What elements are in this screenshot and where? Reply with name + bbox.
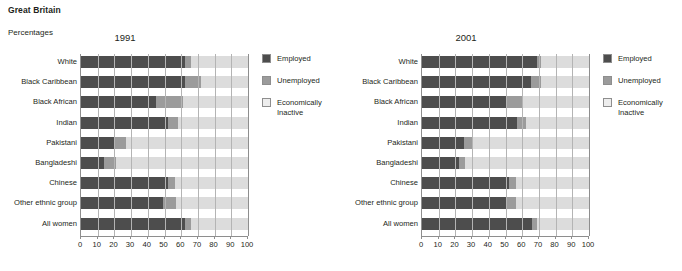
gridline <box>198 54 199 236</box>
legend-label: Unemployed <box>618 76 661 86</box>
bar-segment-employed <box>81 96 156 108</box>
axis-tick <box>247 236 248 239</box>
legend-swatch-unemployed-icon <box>603 76 612 85</box>
bar-segment-inactive <box>178 117 248 129</box>
legend-2001: EmployedUnemployedEconomically Inactive <box>603 54 681 129</box>
axis-tick <box>113 236 114 239</box>
axis-tick <box>555 236 556 239</box>
category-label: Black African <box>0 96 77 108</box>
axis-tick <box>214 236 215 239</box>
bar-segment-employed <box>422 137 464 149</box>
gridline <box>472 54 473 236</box>
legend-label: Unemployed <box>277 76 320 86</box>
bar-segment-unemployed <box>114 137 126 149</box>
bar-segment-inactive <box>175 177 248 189</box>
bar-segment-employed <box>422 197 507 209</box>
bar-segment-inactive <box>537 218 589 230</box>
category-label: Black Caribbean <box>0 76 77 88</box>
legend-label: Employed <box>618 54 652 64</box>
category-label: White <box>0 56 77 68</box>
bar-segment-inactive <box>541 56 589 68</box>
bar-segment-unemployed <box>459 157 466 169</box>
category-label: Other ethnic group <box>0 197 77 209</box>
gridline <box>248 54 249 236</box>
axis-tick <box>421 236 422 239</box>
bar-segment-employed <box>422 117 517 129</box>
bar-segment-unemployed <box>156 96 183 108</box>
bar-segment-employed <box>422 96 506 108</box>
gridline <box>539 54 540 236</box>
plot-area-2001: WhiteBlack CaribbeanBlack AfricanIndianP… <box>421 54 589 236</box>
axis-tick <box>147 236 148 239</box>
bar-segment-inactive <box>526 117 589 129</box>
category-label: White <box>323 56 418 68</box>
bar-segment-inactive <box>201 76 248 88</box>
category-label: Bangladeshi <box>323 157 418 169</box>
plot-area-1991: WhiteBlack CaribbeanBlack AfricanIndianP… <box>80 54 248 236</box>
legend-item-unemployed[interactable]: Unemployed <box>603 76 681 86</box>
axis-tick <box>130 236 131 239</box>
axis-tick <box>230 236 231 239</box>
axis-tick <box>97 236 98 239</box>
axis-tick <box>505 236 506 239</box>
bar-segment-employed <box>81 177 168 189</box>
gridline <box>231 54 232 236</box>
bar-segment-employed <box>422 157 459 169</box>
bar-segment-inactive <box>516 197 589 209</box>
axis-tick <box>538 236 539 239</box>
bar-segment-unemployed <box>506 96 523 108</box>
axis-tick <box>164 236 165 239</box>
axis-tick-label: 100 <box>576 240 600 249</box>
bar-segment-inactive <box>541 76 589 88</box>
bar-segment-inactive <box>191 218 248 230</box>
category-label: Indian <box>323 117 418 129</box>
axis-tick <box>438 236 439 239</box>
bar-segment-inactive <box>126 137 248 149</box>
axis-tick <box>180 236 181 239</box>
legend-item-employed[interactable]: Employed <box>603 54 681 64</box>
gridline <box>589 54 590 236</box>
bar-segment-employed <box>81 197 163 209</box>
legend-label: Employed <box>277 54 311 64</box>
bar-segment-unemployed <box>507 197 515 209</box>
chart-title-1991: 1991 <box>0 32 250 43</box>
gridline <box>148 54 149 236</box>
gridline <box>556 54 557 236</box>
legend-item-inactive[interactable]: Economically Inactive <box>603 98 681 117</box>
bar-segment-inactive <box>516 177 589 189</box>
bar-segment-inactive <box>191 56 248 68</box>
axis-tick <box>521 236 522 239</box>
gridline <box>215 54 216 236</box>
axis-tick <box>471 236 472 239</box>
bar-segment-unemployed <box>168 117 178 129</box>
bar-segment-inactive <box>176 197 248 209</box>
bar-segment-unemployed <box>464 137 472 149</box>
category-label: Indian <box>0 117 77 129</box>
bar-segment-unemployed <box>185 56 192 68</box>
gridline <box>181 54 182 236</box>
bar-segment-unemployed <box>185 218 192 230</box>
bar-segment-employed <box>81 117 168 129</box>
gridline <box>489 54 490 236</box>
category-label: Chinese <box>323 177 418 189</box>
axis-tick <box>571 236 572 239</box>
bar-segment-employed <box>81 56 185 68</box>
category-label: Black African <box>323 96 418 108</box>
legend-swatch-employed-icon <box>262 54 271 63</box>
bar-segment-employed <box>422 177 509 189</box>
gridline <box>506 54 507 236</box>
gridline <box>522 54 523 236</box>
axis-tick <box>588 236 589 239</box>
category-label: Pakistani <box>0 137 77 149</box>
bar-segment-unemployed <box>168 177 175 189</box>
gridline <box>572 54 573 236</box>
category-label: Other ethnic group <box>323 197 418 209</box>
category-label: All women <box>0 218 77 230</box>
legend-swatch-unemployed-icon <box>262 76 271 85</box>
gridline <box>165 54 166 236</box>
axis-tick <box>197 236 198 239</box>
gridline <box>114 54 115 236</box>
bar-segment-employed <box>81 157 104 169</box>
legend-swatch-employed-icon <box>603 54 612 63</box>
x-axis-1991: 0102030405060708090100 <box>80 236 248 256</box>
